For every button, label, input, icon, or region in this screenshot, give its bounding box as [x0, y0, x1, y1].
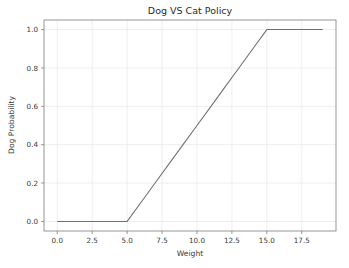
- chart-figure: 0.02.55.07.510.012.515.017.5 0.00.20.40.…: [0, 0, 349, 268]
- y-tick-label: 0.6: [27, 102, 39, 111]
- plot-area-background: [44, 20, 336, 231]
- chart-title: Dog VS Cat Policy: [148, 5, 233, 16]
- x-tick-label: 10.0: [189, 236, 205, 245]
- x-tick-label: 17.5: [294, 236, 310, 245]
- x-tick-label: 0.0: [52, 236, 64, 245]
- x-tick-label: 12.5: [224, 236, 240, 245]
- x-axis-label: Weight: [177, 249, 203, 258]
- y-tick-label: 0.4: [27, 140, 39, 149]
- y-tick-label: 0.2: [27, 179, 38, 188]
- dog-vs-cat-policy-chart: 0.02.55.07.510.012.515.017.5 0.00.20.40.…: [0, 0, 349, 268]
- x-tick-label: 7.5: [156, 236, 167, 245]
- x-tick-label: 15.0: [259, 236, 275, 245]
- x-tick-label: 2.5: [86, 236, 97, 245]
- y-tick-label: 0.0: [27, 217, 39, 226]
- y-tick-label: 0.8: [27, 64, 39, 73]
- x-tick-label: 5.0: [121, 236, 133, 245]
- y-axis-label: Dog Probability: [7, 96, 16, 154]
- y-tick-label: 1.0: [27, 25, 39, 34]
